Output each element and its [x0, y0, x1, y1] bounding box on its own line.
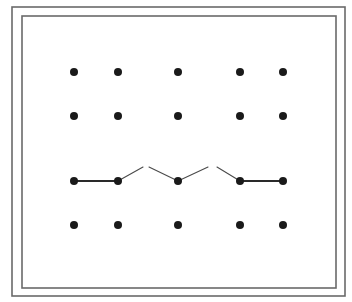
dot-r1-c2 — [114, 68, 122, 76]
dot-r1-c5 — [279, 68, 287, 76]
inner-frame — [22, 16, 336, 288]
dot-r4-c4 — [236, 221, 244, 229]
outer-frame — [12, 7, 345, 296]
thin-segment-3 — [149, 167, 178, 181]
thin-segment-2 — [118, 167, 143, 181]
dot-r2-c5 — [279, 112, 287, 120]
dot-grid — [70, 68, 287, 229]
dot-grid-diagram — [0, 0, 352, 302]
dot-r1-c4 — [236, 68, 244, 76]
dot-r3-c3 — [174, 177, 182, 185]
dot-r2-c4 — [236, 112, 244, 120]
dot-r1-c3 — [174, 68, 182, 76]
dot-r4-c2 — [114, 221, 122, 229]
dot-r3-c2 — [114, 177, 122, 185]
dot-r3-c1 — [70, 177, 78, 185]
dot-r3-c4 — [236, 177, 244, 185]
dot-r2-c3 — [174, 112, 182, 120]
dot-r4-c1 — [70, 221, 78, 229]
thin-segment-5 — [217, 167, 240, 181]
dot-r1-c1 — [70, 68, 78, 76]
thin-segment-4 — [178, 167, 208, 181]
dot-r4-c3 — [174, 221, 182, 229]
dot-r4-c5 — [279, 221, 287, 229]
dot-r2-c2 — [114, 112, 122, 120]
dot-r3-c5 — [279, 177, 287, 185]
dot-r2-c1 — [70, 112, 78, 120]
